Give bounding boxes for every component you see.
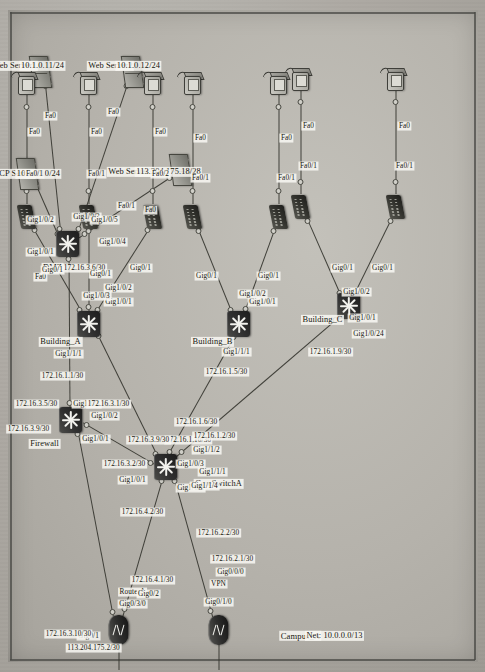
building-a-access-uplink2-label: Gig0/1 xyxy=(128,264,152,273)
access-switch-c2[interactable] xyxy=(293,195,308,219)
pc-b2[interactable] xyxy=(183,73,202,95)
building-b-gig101-label: Gig1/0/1 xyxy=(247,298,277,307)
switch-icon xyxy=(154,454,177,480)
switch-icon xyxy=(56,231,79,257)
building-c-access-uplink2-label: Gig0/1 xyxy=(330,264,354,273)
pc-a2[interactable] xyxy=(79,73,98,95)
pc-c2[interactable] xyxy=(291,69,310,91)
building-b-uplink-label: Gig1/1/1 xyxy=(221,348,251,357)
pc-b1[interactable] xyxy=(269,73,288,95)
firewall-gig1-ip-label: 172.16.3.9/30 xyxy=(6,425,51,434)
access-switch-b2[interactable] xyxy=(185,205,200,229)
device-vpn-router[interactable] xyxy=(208,615,228,645)
pc-b2-port-label: Fa0 xyxy=(193,134,207,143)
access-switch-b1[interactable] xyxy=(271,205,286,229)
pc-a1-port-label: Fa0 xyxy=(153,128,167,137)
building-a-access-uplink3-label: Gig0/1 xyxy=(40,266,64,275)
core-gig114-ip-label: 172.16.2.2/30 xyxy=(196,529,241,538)
pc-c2-port-label: Fa0 xyxy=(301,122,315,131)
link-endpoint-dot xyxy=(392,179,398,185)
router-gig02-label: Gig0/2 xyxy=(136,590,160,599)
link-endpoint-dot xyxy=(275,104,281,110)
link-endpoint-dot xyxy=(149,188,155,194)
building-a-gig103-label: Gig1/0/3 xyxy=(81,292,111,301)
building-c-uplink-label: Gig1/0/24 xyxy=(351,330,385,339)
access-a-port-extra-label: Fa0/1 xyxy=(116,202,136,211)
link-endpoint-dot xyxy=(297,99,303,105)
network-label: Net: 10.0.0.0/13 xyxy=(304,631,363,641)
access-switch-icon xyxy=(182,205,202,229)
firewall-gig1-port-label: Gig1/0/1 xyxy=(80,435,110,444)
building-a-label: Building_A xyxy=(38,337,82,347)
link-endpoint-dot xyxy=(149,104,155,110)
router-icon xyxy=(208,615,228,645)
link-endpoint-dot xyxy=(85,104,91,110)
link-endpoint-dot xyxy=(83,422,89,428)
link-endpoint-dot xyxy=(147,460,153,466)
building-b-gig102-label: Gig1/0/2 xyxy=(237,290,267,299)
firewall-to-dmz-ip-label: 172.16.3.5/30 xyxy=(14,400,59,409)
pc-a3-switch-port-label: Fa0/1 xyxy=(24,170,44,179)
firewall-gig2-label: Gig1/0/2 xyxy=(89,412,119,421)
device-core-switch-a[interactable] xyxy=(154,454,177,480)
access-switch-icon xyxy=(385,195,405,219)
network-topology-canvas: Campus_ANet: 10.0.0.0/13Gig0/3/0RouterA1… xyxy=(0,0,485,672)
core-gig102-ip-label: 172.16.4.2/30 xyxy=(120,508,165,517)
web-server3-port-label: Fa0 xyxy=(143,206,157,215)
core-gig111-label: Gig1/1/1 xyxy=(197,468,227,477)
pc-c1[interactable] xyxy=(386,69,405,91)
core-gig112-ip-label: 172.16.1.6/30 xyxy=(174,418,219,427)
link-endpoint-dot xyxy=(189,104,195,110)
building-c-label: Building_C xyxy=(300,315,343,325)
pc-c1-port-label: Fa0 xyxy=(397,122,411,131)
link-endpoint-dot xyxy=(195,228,201,234)
wan-ip-label: 113.204.175.2/30 xyxy=(65,644,121,653)
building-a-access-uplink1-label: Gig0/1 xyxy=(88,270,112,279)
pc-b1-port-label: Fa0 xyxy=(279,134,293,143)
core-gig101-label: Gig1/0/1 xyxy=(117,476,147,485)
pc-c1-switch-port-label: Fa0/1 xyxy=(394,162,414,171)
link-firewall-dmz xyxy=(68,254,70,408)
router-to-firewall-ip-label: 172.16.3.10/30 xyxy=(44,630,92,639)
firewall-zone-label: Firewall xyxy=(28,439,60,449)
vpn-gig000-label: Gig0/0/0 xyxy=(215,568,245,577)
dmz-gig1-label: Gig1/0/1 xyxy=(25,248,55,257)
link-endpoint-dot xyxy=(23,104,29,110)
link-endpoint-dot xyxy=(275,188,281,194)
device-firewall[interactable] xyxy=(59,407,82,433)
web-server2-ip-label: 10.1.0.12/24 xyxy=(115,61,161,71)
building-a-uplink-label: Gig1/1/1 xyxy=(53,350,83,359)
router-icon xyxy=(108,615,128,645)
access-switch-icon xyxy=(268,205,288,229)
vpn-wan-port-label: Gig0/1/0 xyxy=(203,598,233,607)
pc-a3-port-label: Fa0 xyxy=(27,128,41,137)
access-switch-c1[interactable] xyxy=(388,195,403,219)
pc-a1[interactable] xyxy=(143,73,162,95)
pc-icon xyxy=(269,73,288,95)
device-router-a[interactable] xyxy=(108,615,128,645)
pc-icon xyxy=(183,73,202,95)
pc-icon xyxy=(79,73,98,95)
pc-icon xyxy=(386,69,405,91)
link-endpoint-dot xyxy=(270,228,276,234)
link-endpoint-dot xyxy=(85,304,91,310)
device-dmz-switch[interactable] xyxy=(56,231,79,257)
pc-a3[interactable] xyxy=(17,73,36,95)
scanned-page-background: Campus_ANet: 10.0.0.0/13Gig0/3/0RouterA1… xyxy=(0,0,485,672)
vpn-gig000-ip-label: 172.16.2.1/30 xyxy=(210,555,255,564)
link-endpoint-dot xyxy=(297,179,303,185)
link-bldgc-access2 xyxy=(305,216,342,299)
building-c-gig101-label: Gig1/0/1 xyxy=(347,314,377,323)
pc-icon xyxy=(291,69,310,91)
pc-b2-switch-port-label: Fa0/1 xyxy=(190,174,210,183)
building-b-ip-label: 172.16.1.5/30 xyxy=(204,368,249,377)
device-building-a-switch[interactable] xyxy=(77,311,100,337)
core-gig114-label: Gig1/1/4 xyxy=(189,482,219,491)
router-a-wan-port-label: Gig0/3/0 xyxy=(117,600,147,609)
firewall-gig2-ip-label: 172.16.3.1/30 xyxy=(86,400,131,409)
dmz-gig4-label: Gig1/0/4 xyxy=(97,238,127,247)
device-building-b-switch[interactable] xyxy=(227,311,250,337)
link-endpoint-dot xyxy=(178,449,184,455)
switch-icon xyxy=(59,407,82,433)
pc-a1-switch-port-label: Fa0/2 xyxy=(150,170,170,179)
